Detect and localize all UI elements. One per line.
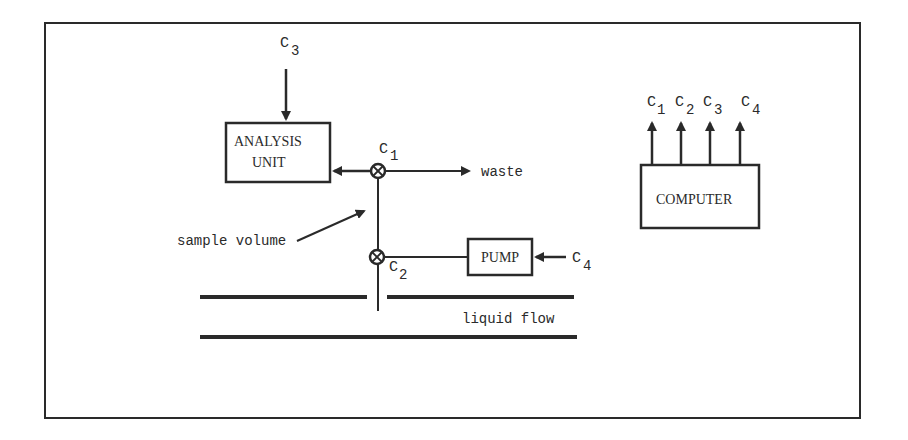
svg-text:2: 2	[399, 267, 407, 283]
svg-text:4: 4	[583, 258, 591, 274]
computer-output-c3: C 3	[703, 94, 722, 164]
svg-text:C: C	[675, 94, 684, 111]
svg-text:COMPUTER: COMPUTER	[656, 192, 733, 207]
svg-text:C: C	[741, 94, 750, 111]
liquid-flow-label: liquid flow	[462, 311, 555, 327]
valve-c2-icon	[370, 250, 384, 264]
svg-text:UNIT: UNIT	[252, 155, 286, 170]
svg-text:3: 3	[714, 102, 722, 118]
c1-valve-label: C 1	[379, 141, 398, 164]
computer-box: COMPUTER	[641, 165, 759, 228]
svg-text:C: C	[280, 35, 289, 52]
computer-output-c4: C 4	[740, 94, 760, 164]
svg-text:C: C	[379, 141, 388, 158]
sampling-system-diagram: C 3 ANALYSIS UNIT C 1 waste sample volum…	[0, 0, 908, 440]
svg-text:4: 4	[752, 102, 760, 118]
svg-text:1: 1	[657, 102, 665, 118]
svg-text:PUMP: PUMP	[481, 250, 519, 265]
computer-output-c2: C 2	[675, 94, 694, 164]
svg-text:C: C	[703, 94, 712, 111]
svg-text:1: 1	[390, 148, 398, 164]
pump-box: PUMP	[468, 239, 532, 275]
c3-input-label: C 3	[280, 35, 299, 59]
svg-text:C: C	[389, 259, 398, 276]
sample-volume-pointer	[297, 211, 364, 241]
sample-volume-label: sample volume	[177, 233, 286, 249]
valve-c1-icon	[371, 164, 385, 178]
svg-text:3: 3	[291, 43, 299, 59]
analysis-unit-box: ANALYSIS UNIT	[226, 123, 330, 182]
c4-input-label: C 4	[572, 250, 591, 274]
svg-text:C: C	[647, 94, 656, 111]
svg-text:ANALYSIS: ANALYSIS	[234, 134, 302, 149]
computer-output-c1: C 1	[647, 94, 665, 164]
waste-label: waste	[481, 164, 523, 180]
svg-text:2: 2	[686, 102, 694, 118]
c2-valve-label: C 2	[389, 259, 407, 283]
svg-text:C: C	[572, 250, 581, 267]
